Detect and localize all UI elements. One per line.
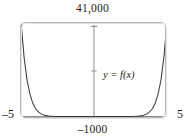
x-axis-min-label: –5 (2, 108, 14, 120)
plot-canvas (21, 23, 166, 118)
plot-viewport (20, 22, 166, 118)
x-axis-max-label: 5 (177, 108, 183, 120)
y-axis-max-label: 41,000 (0, 3, 185, 15)
function-label: y = f(x) (103, 70, 135, 81)
graph-figure: 41,000 y = f(x) –1000 –5 5 (0, 0, 185, 140)
y-axis-min-label: –1000 (0, 124, 185, 136)
